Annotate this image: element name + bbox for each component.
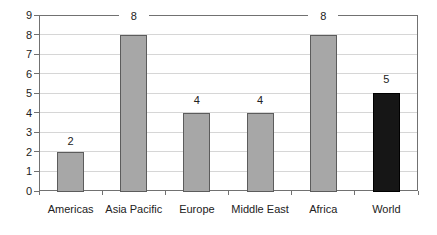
bar-value-label-asia-pacific: 8: [119, 10, 149, 22]
y-axis-tick-label: 6: [14, 68, 32, 80]
bar-middle-east: [247, 113, 274, 192]
bar-africa: [310, 35, 337, 192]
gridline-y5: [40, 93, 417, 94]
bar-world: [373, 93, 400, 192]
y-axis-tick-label: 4: [14, 107, 32, 119]
gridline-y1: [40, 171, 417, 172]
bar-value-label-world: 5: [371, 73, 401, 85]
y-axis-tick-label: 3: [14, 126, 32, 138]
gridline-y2: [40, 151, 417, 152]
y-axis-tick: [34, 34, 39, 35]
y-axis-tick-label: 8: [14, 29, 32, 41]
y-axis-tick-label: 5: [14, 87, 32, 99]
x-axis-tick: [228, 191, 229, 195]
bar-asia-pacific: [120, 35, 147, 192]
y-axis-tick: [34, 73, 39, 74]
y-axis-tick: [34, 171, 39, 172]
bar-europe: [183, 113, 210, 192]
y-axis-tick: [34, 151, 39, 152]
x-axis-tick: [418, 191, 419, 195]
y-axis-tick: [34, 93, 39, 94]
x-axis-tick: [39, 191, 40, 195]
gridline-y7: [40, 54, 417, 55]
bar-americas: [57, 152, 84, 192]
gridline-y4: [40, 112, 417, 113]
x-axis-tick: [165, 191, 166, 195]
y-axis-tick-label: 2: [14, 146, 32, 158]
x-axis-label-world: World: [341, 203, 431, 215]
bar-value-label-africa: 8: [308, 10, 338, 22]
gridline-y6: [40, 73, 417, 74]
bar-value-label-middle-east: 4: [245, 94, 275, 106]
y-axis-tick-label: 1: [14, 165, 32, 177]
y-axis-tick-label: 9: [14, 9, 32, 21]
plot-area: [39, 15, 418, 191]
x-axis-tick: [102, 191, 103, 195]
bar-value-label-europe: 4: [182, 94, 212, 106]
y-axis-tick: [34, 54, 39, 55]
gridline-y8: [40, 34, 417, 35]
gridline-y3: [40, 132, 417, 133]
y-axis-tick: [34, 132, 39, 133]
x-axis-tick: [291, 191, 292, 195]
bar-value-label-americas: 2: [56, 135, 86, 147]
x-axis-tick: [354, 191, 355, 195]
bar-chart: 01234567892Americas8Asia Pacific4Europe4…: [0, 0, 437, 235]
y-axis-tick-label: 0: [14, 185, 32, 197]
y-axis-tick-label: 7: [14, 48, 32, 60]
y-axis-tick: [34, 112, 39, 113]
y-axis-tick: [34, 15, 39, 16]
